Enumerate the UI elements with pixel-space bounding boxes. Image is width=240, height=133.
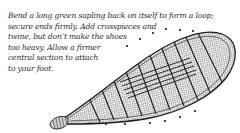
caption-line: secure ends firmly. Add crosspieces and [8, 22, 208, 33]
snowshoe-tail [50, 116, 68, 129]
page: Bend a long green sapling back on itself… [0, 0, 240, 133]
caption-line: to your foot. [8, 64, 208, 75]
caption-line: central section to attach [8, 53, 208, 64]
caption-line: Bend a long green sapling back on itself… [8, 11, 208, 22]
caption-line: too heavy. Allow a firmer [8, 43, 208, 54]
instruction-caption: Bend a long green sapling back on itself… [8, 11, 208, 75]
caption-line: twine, but don’t make the shoes [8, 32, 208, 43]
